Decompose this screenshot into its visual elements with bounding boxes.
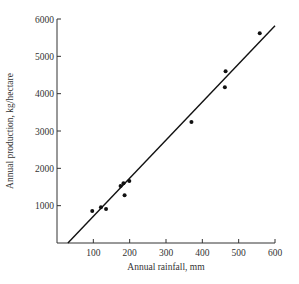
data-point bbox=[123, 193, 127, 197]
y-tick-label: 6000 bbox=[35, 15, 54, 25]
x-tick-label: 300 bbox=[159, 248, 174, 258]
y-tick-label: 2000 bbox=[35, 164, 54, 174]
data-point bbox=[189, 120, 193, 124]
data-point bbox=[90, 209, 94, 213]
data-points bbox=[90, 31, 261, 213]
data-point bbox=[104, 207, 108, 211]
x-axis-label: Annual rainfall, mm bbox=[127, 262, 205, 272]
regression-line bbox=[68, 26, 275, 243]
x-tick-label: 600 bbox=[268, 248, 283, 258]
x-tick-label: 100 bbox=[86, 248, 101, 258]
data-point bbox=[119, 184, 123, 188]
data-point bbox=[224, 69, 228, 73]
y-tick-label: 3000 bbox=[35, 127, 54, 137]
y-tick-label: 1000 bbox=[35, 201, 54, 211]
data-point bbox=[223, 85, 227, 89]
x-tick-label: 400 bbox=[195, 248, 210, 258]
data-point bbox=[121, 181, 125, 185]
data-point bbox=[127, 179, 131, 183]
data-point bbox=[258, 31, 262, 35]
y-tick-label: 5000 bbox=[35, 52, 54, 62]
x-ticks: 100200300400500600 bbox=[86, 239, 282, 258]
x-tick-label: 200 bbox=[123, 248, 138, 258]
y-axis-label: Annual production, kg/hectare bbox=[5, 73, 15, 189]
x-tick-label: 500 bbox=[232, 248, 247, 258]
axes bbox=[57, 19, 275, 243]
y-tick-label: 4000 bbox=[35, 89, 54, 99]
data-point bbox=[99, 205, 103, 209]
scatter-chart: 100020003000400050006000 100200300400500… bbox=[0, 0, 299, 284]
fit-line bbox=[68, 26, 275, 243]
